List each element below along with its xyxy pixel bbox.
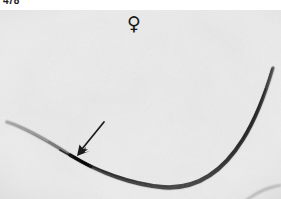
micrograph-canvas bbox=[0, 10, 281, 199]
micrograph-image: ♀ bbox=[0, 10, 281, 199]
figure-plate: 478 bbox=[0, 0, 281, 199]
female-sex-symbol-icon: ♀ bbox=[127, 12, 141, 34]
plate-vignette bbox=[0, 10, 281, 199]
figure-number-label: 478 bbox=[3, 0, 19, 6]
